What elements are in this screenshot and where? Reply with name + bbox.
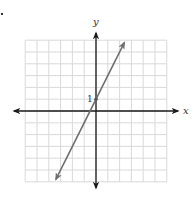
axes (14, 33, 178, 188)
y-tick-label-1: 1 (87, 94, 93, 104)
coordinate-plane: x y 1 (0, 0, 193, 199)
x-axis-label: x (183, 105, 189, 116)
y-axis-label: y (92, 16, 99, 27)
y-intercept-point (94, 97, 98, 101)
